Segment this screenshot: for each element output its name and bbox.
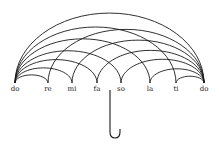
- note-label-fa: fa: [94, 86, 101, 93]
- canopy-arcs: [15, 13, 204, 83]
- note-label-do-high: do: [200, 86, 209, 93]
- arc-from-low-do: [15, 51, 121, 83]
- note-label-mi: mi: [68, 86, 77, 93]
- umbrella-handle: [110, 90, 120, 138]
- arc-from-low-do: [15, 60, 97, 83]
- arc-from-low-do: [15, 75, 48, 83]
- note-label-la: la: [147, 86, 153, 93]
- note-label-do: do: [11, 86, 20, 93]
- note-label-ti: ti: [173, 86, 178, 93]
- umbrella-diagram: [0, 0, 219, 152]
- note-label-so: so: [117, 86, 125, 93]
- note-label-re: re: [44, 86, 52, 93]
- arc-to-high-do: [176, 76, 204, 83]
